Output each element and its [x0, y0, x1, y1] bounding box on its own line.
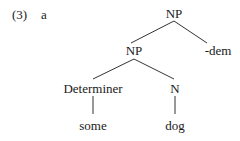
edge-np-determiner: [93, 59, 134, 79]
node-noun: N: [170, 82, 179, 96]
node-dem: -dem: [205, 44, 232, 58]
edge-root-dem: [174, 21, 207, 43]
leaf-some: some: [79, 119, 106, 133]
node-root-np: NP: [166, 7, 183, 21]
leaf-dog: dog: [165, 119, 185, 133]
node-determiner: Determiner: [63, 82, 122, 96]
edge-np-noun: [134, 59, 174, 79]
node-inner-np: NP: [126, 44, 143, 58]
example-number: (3): [12, 8, 27, 22]
edge-root-np: [131, 21, 174, 43]
example-letter: a: [41, 8, 47, 22]
tree-edges: [0, 0, 240, 141]
